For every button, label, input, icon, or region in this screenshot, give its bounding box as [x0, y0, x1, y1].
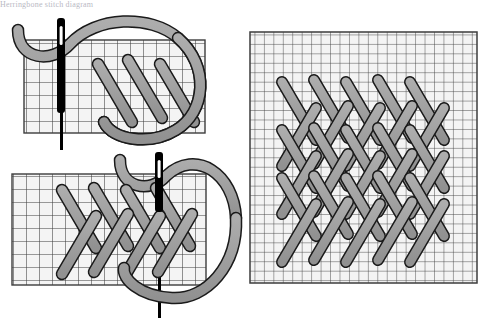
- figure-bottom-left: [0, 150, 245, 328]
- figure-right-canvas: [245, 25, 489, 295]
- needle-eye: [60, 26, 63, 45]
- diagram-page: Herringbone stitch diagram: [0, 0, 489, 328]
- needle-tail: [60, 112, 63, 150]
- figure-top-left-canvas: [0, 4, 245, 154]
- figure-right: [245, 25, 489, 295]
- figure-top-left: [0, 4, 245, 154]
- needle: [155, 152, 163, 212]
- needle-eye: [158, 160, 161, 178]
- needle: [57, 18, 65, 113]
- figure-bottom-left-canvas: [0, 150, 245, 328]
